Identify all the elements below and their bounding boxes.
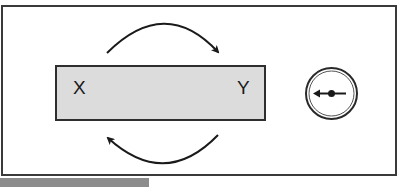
caption-band [0,178,149,187]
top-arc-arrow-icon [107,24,218,53]
cropped-caption-text [160,182,310,187]
bottom-arc-arrow-icon [108,135,218,163]
box-label-x: X [73,78,86,97]
xy-box [55,65,266,121]
box-label-y: Y [237,78,250,97]
gauge-pointer-left-icon [304,66,359,121]
